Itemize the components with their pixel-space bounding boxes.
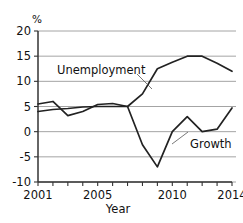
growth-leader-line: [172, 132, 188, 144]
x-tick-label: 2005: [83, 188, 112, 202]
x-tick-label: 2001: [23, 188, 52, 202]
x-axis-title: Year: [105, 202, 131, 216]
chart-container: % Year Unemployment Growth -10-505101520…: [0, 0, 243, 223]
x-tick-labels-group: 2001200520102014: [23, 188, 243, 202]
y-tick-label: 5: [24, 100, 31, 114]
series-label-growth: Growth: [190, 137, 232, 151]
x-tick-label: 2014: [217, 188, 243, 202]
series-label-unemployment: Unemployment: [57, 63, 146, 77]
x-tick-label: 2010: [158, 188, 187, 202]
y-tick-label: 10: [16, 74, 31, 88]
y-tick-label: 0: [24, 125, 31, 139]
y-tick-label: 20: [16, 24, 31, 38]
line-chart: % Year Unemployment Growth -10-505101520…: [0, 0, 243, 223]
y-tick-label: -5: [20, 150, 31, 164]
y-tick-label: 15: [16, 49, 31, 63]
y-tick-labels-group: -10-505101520: [12, 24, 31, 189]
gridlines-group: [38, 31, 236, 182]
y-axis-unit-label: %: [32, 13, 42, 25]
y-tick-label: -10: [12, 175, 31, 189]
